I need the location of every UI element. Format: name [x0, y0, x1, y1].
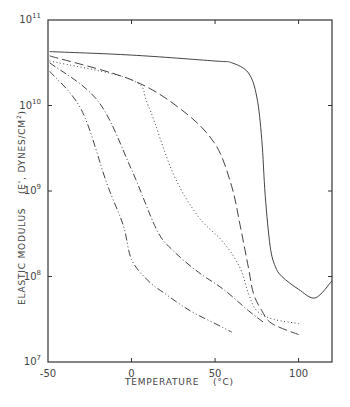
curve-dotted: [50, 61, 299, 324]
curve-dash-dot: [50, 63, 266, 324]
y-axis-ticks: 10710810910101011: [19, 12, 332, 367]
elastic-modulus-chart: -50050100 10710810910101011 TEMPERATURE …: [0, 0, 350, 407]
curve-solid: [50, 52, 332, 298]
curve-dash-dot-dot: [50, 71, 232, 332]
y-tick-label: 1010: [19, 98, 41, 111]
x-tick-label: 100: [289, 368, 308, 379]
y-tick-label: 1011: [19, 12, 41, 25]
x-axis-title: TEMPERATURE (°C): [124, 377, 234, 387]
curves: [50, 52, 332, 335]
x-axis-ticks: -50050100: [40, 20, 308, 379]
x-tick-label: -50: [40, 368, 56, 379]
y-axis-title: ELASTIC MODULUS (E', DYNES/CM2): [15, 110, 27, 305]
y-tick-label: 107: [24, 354, 41, 367]
curve-dashed: [50, 56, 299, 335]
